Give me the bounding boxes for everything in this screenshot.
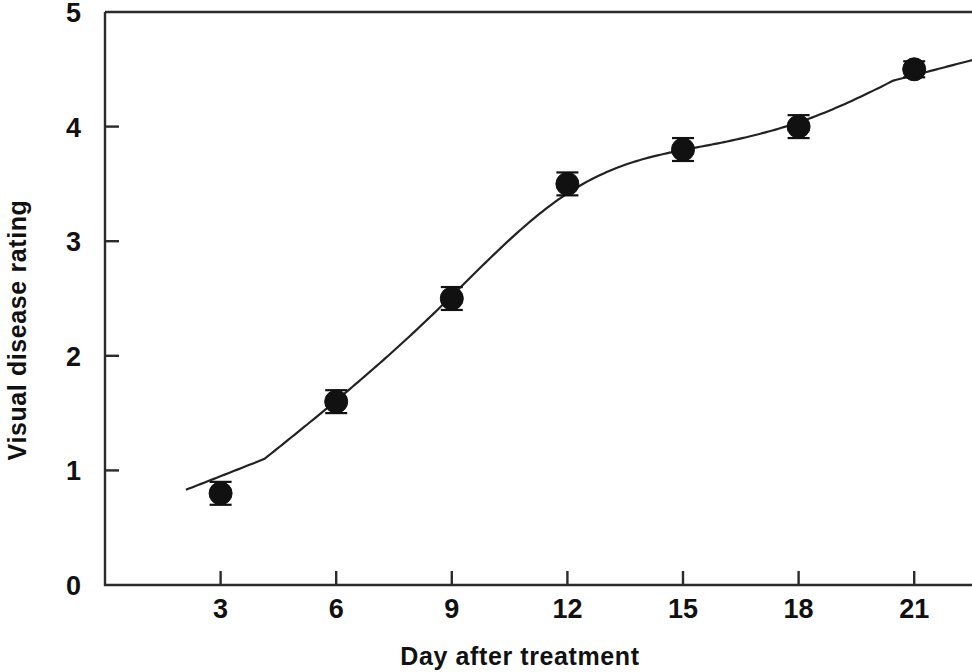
x-tick-label: 9 [444, 594, 459, 624]
data-point [325, 390, 348, 413]
x-tick-label: 21 [899, 594, 929, 624]
y-tick-label: 1 [66, 456, 81, 486]
y-tick-label: 0 [66, 571, 81, 601]
x-tick-label: 15 [668, 594, 698, 624]
x-tick-label: 3 [213, 594, 228, 624]
y-tick-label: 5 [66, 0, 81, 28]
x-tick-label: 18 [784, 594, 814, 624]
y-tick-label: 2 [66, 342, 81, 372]
data-point [440, 287, 463, 310]
data-point [556, 172, 579, 195]
x-axis-title: Day after treatment [400, 642, 639, 670]
chart-plot-area: 012345 36912151821 Day after treatment V… [0, 0, 972, 672]
y-tick-label: 4 [66, 113, 81, 143]
chart-figure: 012345 36912151821 Day after treatment V… [0, 0, 972, 672]
x-tick-label: 12 [552, 594, 582, 624]
y-tick-label: 3 [66, 227, 81, 257]
data-point [787, 115, 810, 138]
y-axis-title: Visual disease rating [3, 200, 31, 461]
data-point [209, 482, 232, 505]
data-point [672, 138, 695, 161]
chart-background [0, 0, 972, 672]
data-point [903, 58, 926, 81]
x-tick-label: 6 [329, 594, 344, 624]
